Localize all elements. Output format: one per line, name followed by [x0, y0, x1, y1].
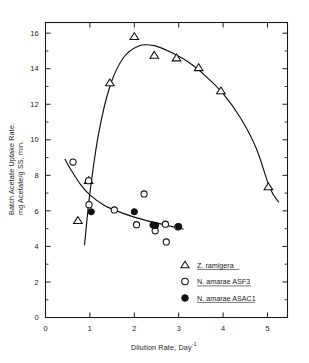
x-tick-label: 1 [88, 324, 92, 333]
legend-marker-filled-circle-icon [182, 295, 189, 302]
y-tick-label: 6 [34, 207, 38, 216]
data-point-z-ramigera [172, 54, 181, 61]
y-tick-label: 10 [30, 135, 38, 144]
data-point-n-amarae-asac1 [131, 209, 137, 215]
plot-frame [46, 23, 288, 318]
y-tick-label: 4 [34, 242, 38, 251]
data-point-n-amarae-asf3 [70, 159, 76, 165]
figure-container: 0246810121416012345 Batch Acetate Uptake… [0, 0, 309, 363]
data-point-n-amarae-asf3 [85, 178, 91, 184]
legend: Z. ramigeraN. amarae ASF3N. amarae ASAC1 [181, 261, 256, 303]
data-point-z-ramigera [130, 33, 139, 40]
data-point-n-amarae-asac1 [88, 209, 94, 215]
y-axis-title-line1: Batch Acetate Uptake Rate, [7, 123, 16, 215]
y-axis-title-line2: mg Acetate/g SS, min. [16, 141, 25, 215]
data-point-n-amarae-asf3 [111, 207, 117, 213]
fitted-curve [85, 45, 279, 245]
y-tick-label: 14 [30, 64, 38, 73]
y-tick-label: 0 [34, 313, 38, 322]
x-tick-label: 4 [221, 324, 225, 333]
y-tick-label: 2 [34, 278, 38, 287]
x-tick-label: 5 [265, 324, 269, 333]
legend-marker-open-circle-icon [182, 278, 189, 285]
legend-label: Z. ramigera [197, 261, 234, 270]
y-tick-label: 16 [30, 29, 38, 38]
data-point-n-amarae-asf3 [163, 239, 169, 245]
legend-marker-open-triangle-icon [181, 261, 189, 267]
x-tick-label: 3 [177, 324, 181, 333]
x-axis-title-exponent: -1 [192, 341, 197, 347]
x-tick-label: 0 [43, 324, 47, 333]
data-point-z-ramigera [74, 217, 83, 224]
y-tick-label: 12 [30, 100, 38, 109]
data-point-n-amarae-asac1 [153, 222, 159, 228]
data-point-z-ramigera [150, 51, 159, 58]
x-tick-label: 2 [132, 324, 136, 333]
data-point-n-amarae-asf3 [141, 191, 147, 197]
y-axis-title: Batch Acetate Uptake Rate, mg Acetate/g … [7, 123, 25, 215]
data-point-z-ramigera [106, 79, 115, 86]
data-point-n-amarae-asf3 [86, 202, 92, 208]
data-point-n-amarae-asf3 [162, 221, 168, 227]
legend-label: N. amarae ASF3 [197, 277, 250, 286]
data-points-layer [70, 33, 273, 245]
x-axis-title-text: Dilution Rate, Day [131, 343, 192, 352]
data-point-z-ramigera [264, 183, 273, 190]
data-point-n-amarae-asf3 [133, 222, 139, 228]
legend-label: N. amarae ASAC1 [197, 294, 256, 303]
fitted-curves-layer [65, 45, 279, 245]
data-point-n-amarae-asac1 [176, 223, 182, 229]
y-tick-label: 8 [34, 171, 38, 180]
acetate-uptake-scatter-chart: 0246810121416012345 Batch Acetate Uptake… [0, 0, 309, 363]
x-axis-title: Dilution Rate, Day -1 [131, 341, 197, 352]
fitted-curve [65, 159, 183, 229]
